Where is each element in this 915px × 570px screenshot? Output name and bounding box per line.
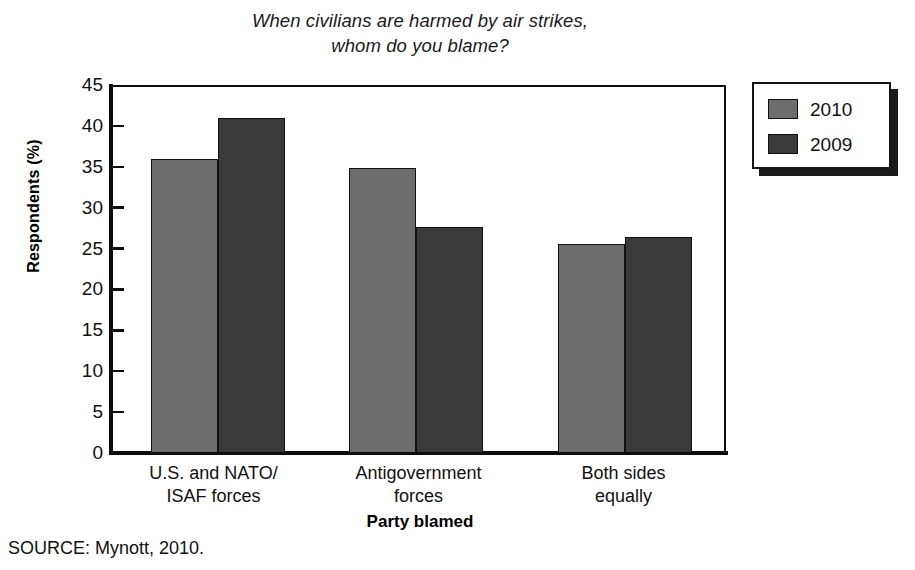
x-axis-category-label-line: equally [514, 485, 734, 508]
y-axis-tick [113, 125, 124, 127]
y-axis-tick [113, 206, 124, 208]
y-axis-tick [113, 166, 124, 168]
chart-title-line-1: When civilians are harmed by air strikes… [110, 8, 730, 33]
bar-2010-2 [349, 168, 416, 453]
y-axis-tick-label: 5 [55, 402, 103, 421]
x-axis-category-label-line: ISAF forces [104, 485, 324, 508]
y-axis-tick [113, 411, 124, 413]
y-axis-tick-label: 20 [55, 279, 103, 298]
y-axis-tick-label: 35 [55, 157, 103, 176]
x-axis-category-label-line: Both sides [514, 462, 734, 485]
x-axis-category-label-line: Antigovernment [309, 462, 529, 485]
x-axis-category-label: Antigovernmentforces [309, 462, 529, 508]
y-axis-tick-label: 10 [55, 361, 103, 380]
y-axis-tick-label: 40 [55, 116, 103, 135]
x-axis-category-label-line: forces [309, 485, 529, 508]
x-axis-category-label: U.S. and NATO/ISAF forces [104, 462, 324, 508]
legend: 20102009 [752, 82, 891, 169]
bar-2010-1 [151, 159, 218, 453]
legend-label: 2009 [810, 135, 852, 154]
y-axis-tick-label: 25 [55, 239, 103, 258]
y-axis-tick-label: 0 [55, 443, 103, 462]
bar-2010-3 [558, 244, 625, 453]
y-axis-tick [113, 288, 124, 290]
y-axis-tick-labels: 454035302520151050 [48, 0, 103, 570]
bar-2009-3 [625, 237, 692, 453]
x-axis-category-label-line: U.S. and NATO/ [104, 462, 324, 485]
legend-swatch-icon [768, 99, 798, 119]
y-axis-tick [113, 370, 124, 372]
y-axis-title: Respondents (%) [25, 106, 43, 306]
bar-2009-1 [218, 118, 285, 453]
bar-2009-2 [416, 227, 483, 453]
legend-item-2010: 2010 [768, 96, 852, 122]
x-axis-category-label: Both sidesequally [514, 462, 734, 508]
x-axis-title: Party blamed [110, 512, 730, 532]
chart-title-line-2: whom do you blame? [110, 33, 730, 58]
legend-label: 2010 [810, 100, 852, 119]
y-axis-tick-label: 45 [55, 75, 103, 94]
legend-swatch-icon [768, 134, 798, 154]
chart-title: When civilians are harmed by air strikes… [110, 8, 730, 58]
y-axis-tick-label: 30 [55, 198, 103, 217]
y-axis-tick [113, 329, 124, 331]
legend-item-2009: 2009 [768, 131, 852, 157]
source-note: SOURCE: Mynott, 2010. [8, 538, 204, 559]
y-axis-tick-label: 15 [55, 320, 103, 339]
y-axis-tick [113, 247, 124, 249]
